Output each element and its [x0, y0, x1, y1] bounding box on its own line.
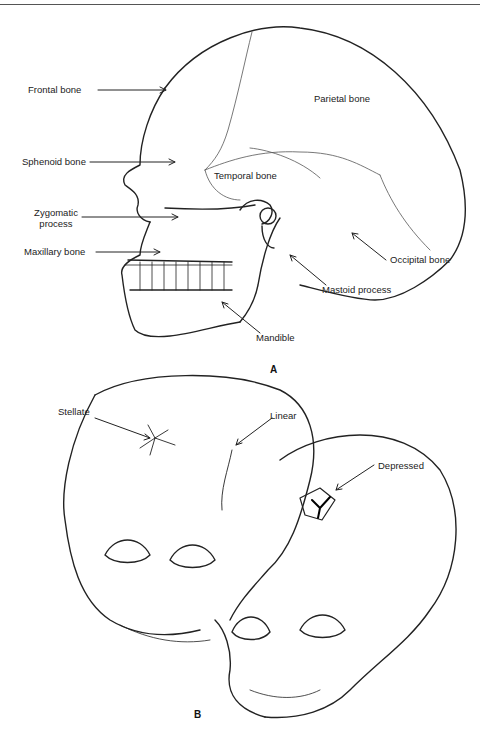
label-parietal-bone: Parietal bone	[314, 93, 370, 104]
leader-arrows-b	[95, 418, 374, 490]
label-temporal-bone: Temporal bone	[214, 170, 277, 181]
label-zygomatic-line2: process	[26, 218, 86, 229]
label-mastoid-process: Mastoid process	[322, 284, 391, 295]
label-occipital-bone: Occipital bone	[390, 254, 450, 265]
label-zygomatic-process: Zygomatic process	[26, 207, 86, 229]
label-mandible: Mandible	[256, 332, 295, 343]
label-sphenoid-bone: Sphenoid bone	[22, 156, 86, 167]
panel-label-a: A	[270, 364, 277, 375]
label-depressed: Depressed	[378, 460, 424, 471]
panel-label-b: B	[194, 709, 201, 720]
label-maxillary-bone: Maxillary bone	[24, 246, 85, 257]
leader-arrows-a	[82, 87, 386, 333]
label-linear: Linear	[270, 410, 296, 421]
skull-lateral-drawing	[122, 27, 466, 337]
label-stellate: Stellate	[58, 406, 90, 417]
label-frontal-bone: Frontal bone	[28, 84, 81, 95]
skull-illustrations	[0, 0, 484, 738]
label-zygomatic-line1: Zygomatic	[26, 207, 86, 218]
